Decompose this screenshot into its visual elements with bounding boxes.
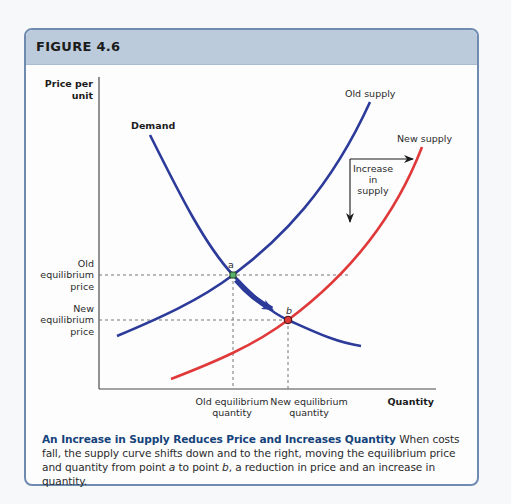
new-supply-curve	[171, 147, 422, 379]
caption-point-b: b	[222, 461, 229, 473]
figure-caption: An Increase in Supply Reduces Price and …	[42, 432, 462, 488]
y-tick-old-line3: price	[70, 281, 94, 292]
guide-lines	[99, 275, 348, 389]
caption-title: An Increase in Supply Reduces Price and …	[42, 433, 396, 445]
x-tick-old-line2: quantity	[212, 407, 252, 418]
shift-label-line1: Increase	[353, 163, 393, 174]
old-supply-label: Old supply	[345, 88, 396, 99]
x-axis-title: Quantity	[387, 396, 434, 407]
y-tick-old-line1: Old	[78, 258, 94, 269]
y-tick-new-line3: price	[70, 326, 94, 337]
new-supply-label: New supply	[397, 133, 452, 144]
y-tick-new-line2: equilibrium	[40, 314, 94, 325]
point-a-label: a	[228, 259, 234, 270]
supply-demand-chart: a b Price per unit Demand Old supply New…	[0, 0, 511, 504]
y-tick-old-line2: equilibrium	[40, 269, 94, 280]
point-b-label: b	[286, 305, 292, 316]
demand-curve	[150, 135, 361, 346]
old-supply-curve	[117, 102, 370, 336]
x-tick-new-line2: quantity	[289, 407, 329, 418]
demand-label: Demand	[131, 120, 175, 131]
shift-label-line3: supply	[357, 185, 389, 196]
point-a-marker	[230, 272, 236, 278]
y-tick-new-line1: New	[73, 303, 94, 314]
y-axis-title-line2: unit	[72, 90, 94, 101]
point-b-marker	[284, 316, 292, 324]
x-tick-old-line1: Old equilibrium	[196, 396, 269, 407]
caption-text-2: to point	[175, 461, 222, 473]
y-axis-title-line1: Price per	[45, 78, 94, 89]
x-tick-new-line1: New equilibrium	[270, 396, 347, 407]
movement-arrow	[236, 280, 272, 309]
shift-label-line2: in	[369, 174, 378, 185]
